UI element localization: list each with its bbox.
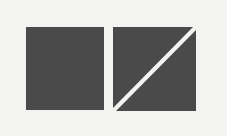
solid-square — [26, 27, 104, 110]
divided-square — [113, 27, 196, 111]
squares-diagram — [0, 0, 227, 136]
diagram-canvas — [0, 0, 227, 136]
